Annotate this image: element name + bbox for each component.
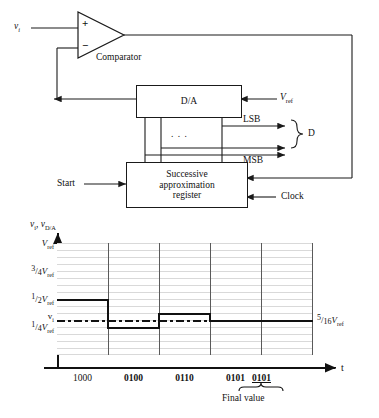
- step-edge-2: [158, 313, 160, 329]
- comparator-label: Comparator: [96, 52, 141, 62]
- x-tick-code-1: 1000: [57, 373, 108, 383]
- y-tick-half-vref: 1/2Vref: [8, 292, 54, 306]
- final-level-annotation: 5/16Vref: [317, 313, 344, 327]
- successive-approximation-register-block: Successive approximation register: [126, 162, 248, 208]
- step-segment-5: [261, 320, 313, 322]
- y-tick-three-quarter-vref: 3/4Vref: [8, 264, 54, 278]
- step-segment-4: [210, 320, 261, 322]
- x-tick-code-2: 0100: [108, 373, 159, 383]
- bus-ellipsis: . . .: [171, 129, 188, 139]
- comparator-plus-terminal: +: [82, 17, 88, 29]
- step-segment-3: [159, 313, 210, 315]
- sar-line-1: Successive: [166, 169, 208, 180]
- sar-line-3: register: [173, 190, 202, 201]
- dac-block: D/A: [136, 85, 242, 118]
- timing-chart: vi, vD/A t: [0, 215, 379, 418]
- x-axis-label: t: [341, 362, 344, 373]
- start-label: Start: [57, 178, 75, 188]
- y-tick-vref: Vref: [8, 238, 54, 250]
- step-segment-1: [57, 299, 108, 301]
- x-tick-code-5-final: 0101: [236, 373, 287, 383]
- vref-label: Vref: [280, 92, 293, 104]
- plot-area: [57, 243, 313, 355]
- lsb-label: LSB: [243, 114, 260, 124]
- step-edge-1: [107, 299, 109, 329]
- clock-label: Clock: [281, 191, 304, 201]
- comparator-minus-terminal: −: [82, 39, 88, 51]
- data-bundle-label: D: [308, 128, 315, 138]
- final-value-caption: Final value: [222, 393, 264, 403]
- x-tick-code-3: 0110: [159, 373, 210, 383]
- sar-line-2: approximation: [159, 180, 214, 191]
- dac-label: D/A: [181, 96, 197, 107]
- step-segment-2: [108, 327, 159, 329]
- vi-level-label: vi: [8, 311, 54, 323]
- adc-block-diagram: vi: [0, 0, 379, 215]
